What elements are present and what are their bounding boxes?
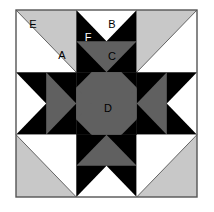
cell-bottom-center: [76, 135, 136, 197]
patch-label-a: A: [58, 49, 66, 61]
cell-middle-right: [137, 72, 197, 134]
cell-bottom-left: [16, 135, 76, 197]
patch-label-d: D: [104, 102, 112, 114]
patch-label-f: F: [85, 31, 92, 43]
quilt-block-diagram: E A B F C D: [0, 0, 214, 212]
patch-label-e: E: [29, 18, 36, 30]
patch-label-b: B: [108, 18, 115, 30]
cell-top-right: [137, 10, 197, 72]
cell-bottom-right: [137, 135, 197, 197]
cell-middle-left: [16, 72, 76, 134]
patch-label-c: C: [108, 50, 116, 62]
quilt-block-canvas: E A B F C D: [0, 0, 214, 212]
cell-top-left: [16, 10, 76, 72]
